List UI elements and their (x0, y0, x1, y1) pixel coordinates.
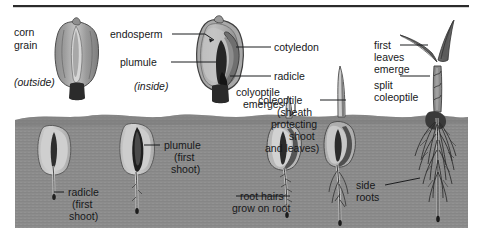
top-divider-rule (13, 5, 469, 7)
label-plumule-first-shoot-2: (first (174, 151, 194, 163)
label-cotyledon: cotyledon (274, 41, 319, 53)
label-endosperm: endosperm (110, 28, 163, 40)
germination-diagram-figure: corn grain (outside) (inside) endosperm … (0, 0, 482, 239)
label-plumule: plumule (120, 56, 157, 68)
diagram-canvas: corn grain (outside) (inside) endosperm … (0, 0, 482, 239)
label-coleoptile-sheath-2: (sheath (277, 106, 312, 118)
label-plumule-first-shoot-3: shoot) (171, 163, 200, 175)
label-inside: (inside) (134, 80, 168, 92)
label-root-hairs-2: grow on root (232, 202, 290, 214)
label-first-leaves-3: emerge (374, 63, 410, 75)
label-radicle: radicle (274, 70, 305, 82)
label-side-roots-2: roots (356, 191, 379, 203)
label-coleoptile-sheath-5: and leaves) (265, 142, 319, 154)
label-first-leaves: first (374, 39, 391, 51)
label-radicle-first-shoot-2: (first (72, 198, 92, 210)
label-split-coleoptile: split (374, 79, 393, 91)
label-radicle-first-shoot: radicle (68, 186, 99, 198)
label-corn-grain-2: grain (14, 39, 38, 51)
label-coleoptile-sheath-4: shoot (289, 130, 315, 142)
label-radicle-first-shoot-3: shoot) (69, 210, 98, 222)
label-side-roots: side (356, 179, 375, 191)
label-plumule-first-shoot: plumule (164, 139, 201, 151)
label-first-leaves-2: leaves (374, 51, 404, 63)
label-outside: (outside) (14, 76, 55, 88)
label-coleoptile-sheath: coleoptile (258, 94, 303, 106)
label-coleoptile-sheath-3: protecting (271, 118, 317, 130)
label-split-coleoptile-2: coleoptile (374, 91, 419, 103)
label-root-hairs: root hairs (240, 190, 284, 202)
stage-whole-grain-outside (55, 18, 99, 101)
label-corn-grain: corn (14, 26, 35, 38)
